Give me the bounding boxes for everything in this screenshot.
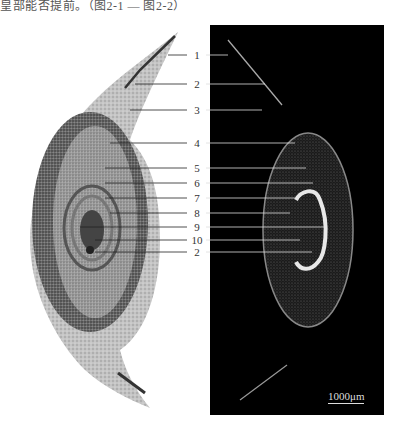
label-1: 1: [189, 50, 205, 61]
figure: 1 2 3 4 5 6 7 8 9 10 2 1000μm: [0, 0, 405, 432]
left-section-image: [30, 32, 178, 408]
label-6: 6: [189, 178, 205, 189]
label-7: 7: [189, 193, 205, 204]
label-4: 4: [189, 138, 205, 149]
label-2: 2: [189, 79, 205, 90]
label-8: 8: [189, 208, 205, 219]
label-9: 9: [189, 222, 205, 233]
label-5: 5: [189, 163, 205, 174]
label-3: 3: [189, 105, 205, 116]
label-10: 10: [189, 235, 205, 246]
scale-bar-label: 1000μm: [328, 390, 364, 402]
scale-bar: 1000μm: [328, 390, 364, 404]
label-2b: 2: [189, 247, 205, 258]
scale-bar-line: [328, 403, 364, 404]
